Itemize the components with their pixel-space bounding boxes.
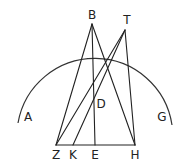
label-E: E bbox=[91, 148, 99, 162]
label-B: B bbox=[88, 8, 96, 22]
circle-arc bbox=[18, 58, 172, 125]
segment-ZB bbox=[56, 24, 92, 145]
label-Z: Z bbox=[52, 148, 60, 162]
segment-TH bbox=[125, 30, 135, 145]
label-K: K bbox=[69, 148, 78, 162]
label-T: T bbox=[122, 13, 131, 27]
geometry-diagram: B T D A G Z K E H bbox=[0, 0, 180, 165]
label-H: H bbox=[130, 148, 139, 162]
segment-BH bbox=[92, 24, 135, 145]
label-A: A bbox=[24, 110, 33, 124]
segment-KT bbox=[73, 30, 125, 145]
label-D: D bbox=[96, 97, 105, 111]
label-G: G bbox=[157, 110, 166, 124]
